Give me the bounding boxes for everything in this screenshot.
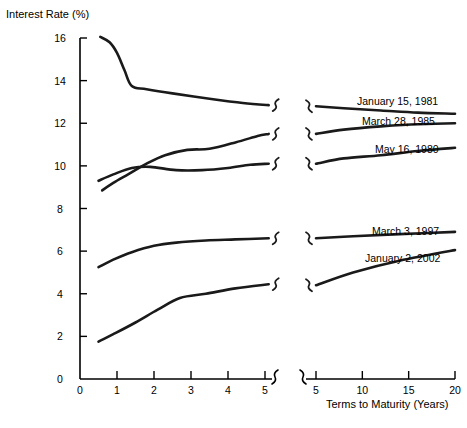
x-axis-ticks-right xyxy=(316,371,455,379)
series-label-march-3-1997: March 3, 1997 xyxy=(372,225,439,237)
y-tick-label-8: 8 xyxy=(46,203,74,215)
y-tick-label-10: 10 xyxy=(46,160,74,172)
break-mark-left-january-15-1981 xyxy=(273,99,279,111)
x-tick-label-right-5: 5 xyxy=(302,384,330,396)
break-mark-left-may-16-1980 xyxy=(273,158,279,170)
series-line-left-may-16-1980 xyxy=(99,164,269,181)
break-mark-left-january-2-2002 xyxy=(273,278,279,290)
series-line-left-march-28-1985 xyxy=(102,134,269,191)
break-mark-right-january-2-2002 xyxy=(306,279,312,291)
y-axis-ticks xyxy=(80,38,87,336)
x-tick-label-left-4: 4 xyxy=(214,384,242,396)
x-tick-label-left-1: 1 xyxy=(103,384,131,396)
axis-break-marks xyxy=(272,370,306,384)
yield-curve-chart: Interest Rate (%) 0246810121416 01234551… xyxy=(0,0,467,428)
y-tick-label-6: 6 xyxy=(46,245,74,257)
break-mark-right-march-28-1985 xyxy=(306,128,312,140)
x-tick-label-right-10: 10 xyxy=(348,384,376,396)
series-lines xyxy=(99,37,456,342)
break-mark-right-march-3-1997 xyxy=(306,232,312,244)
x-tick-label-left-2: 2 xyxy=(140,384,168,396)
series-line-right-january-15-1981 xyxy=(316,106,455,114)
x-tick-label-left-0: 0 xyxy=(66,384,94,396)
y-tick-label-16: 16 xyxy=(46,32,74,44)
break-mark-right-may-16-1980 xyxy=(306,158,312,170)
break-mark-left-march-28-1985 xyxy=(273,128,279,140)
x-axis-title: Terms to Maturity (Years) xyxy=(326,398,448,411)
series-break-marks xyxy=(273,99,312,291)
series-label-may-16-1980: May 16, 1980 xyxy=(375,143,439,155)
y-tick-label-12: 12 xyxy=(46,117,74,129)
break-mark-left-march-3-1997 xyxy=(273,232,279,244)
series-label-january-2-2002: January 2, 2002 xyxy=(365,252,440,264)
y-tick-label-2: 2 xyxy=(46,330,74,342)
series-line-left-january-15-1981 xyxy=(100,37,268,105)
series-label-march-28-1985: March 28, 1985 xyxy=(362,115,435,127)
x-tick-label-right-15: 15 xyxy=(395,384,423,396)
x-tick-label-right-20: 20 xyxy=(441,384,467,396)
y-tick-label-14: 14 xyxy=(46,75,74,87)
series-label-january-15-1981: January 15, 1981 xyxy=(357,95,438,107)
y-tick-label-4: 4 xyxy=(46,288,74,300)
series-line-left-march-3-1997 xyxy=(99,238,269,267)
break-mark-right-january-15-1981 xyxy=(306,100,312,112)
series-line-left-january-2-2002 xyxy=(99,284,269,342)
x-axis-ticks-left xyxy=(117,371,265,379)
x-tick-label-left-3: 3 xyxy=(177,384,205,396)
x-tick-label-left-5: 5 xyxy=(251,384,279,396)
